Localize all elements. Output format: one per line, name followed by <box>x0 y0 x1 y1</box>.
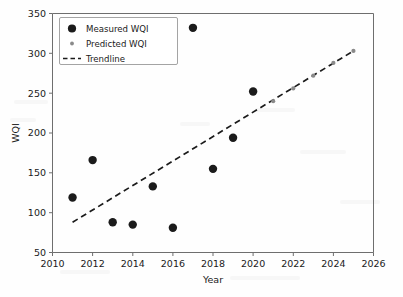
data-point-measured <box>68 193 76 201</box>
y-axis-ticks: 50 100 150 200 250 300 350 <box>28 8 53 258</box>
data-point-measured <box>149 182 157 190</box>
data-point-measured <box>209 165 217 173</box>
legend-marker-measured-icon <box>68 24 76 32</box>
x-tick-label-3: 2016 <box>161 258 185 269</box>
data-point-measured <box>189 24 197 32</box>
chart-figure: 50 100 150 200 250 300 350 2010 2012 201… <box>0 0 403 297</box>
x-tick-label-0: 2010 <box>40 258 64 269</box>
data-point-predicted <box>331 61 335 65</box>
data-point-measured <box>249 87 257 95</box>
data-point-predicted <box>291 86 295 90</box>
x-tick-label-8: 2026 <box>361 258 385 269</box>
legend-label-trendline: Trendline <box>85 54 125 64</box>
y-tick-label-2: 150 <box>28 167 46 178</box>
legend-label-measured: Measured WQI <box>86 24 149 34</box>
trendline <box>73 51 354 222</box>
y-tick-label-3: 200 <box>28 127 46 138</box>
chart-legend[interactable]: Measured WQI Predicted WQI Trendline <box>60 18 178 65</box>
y-tick-label-4: 250 <box>28 88 46 99</box>
legend-label-predicted: Predicted WQI <box>86 39 147 49</box>
data-point-measured <box>229 134 237 142</box>
x-axis-ticks: 2010 2012 2014 2016 2018 2020 2022 2024 … <box>40 253 385 269</box>
x-tick-label-6: 2022 <box>281 258 305 269</box>
y-tick-label-0: 50 <box>34 247 46 258</box>
x-tick-label-2: 2014 <box>121 258 145 269</box>
legend-marker-predicted-icon <box>70 42 74 46</box>
data-point-predicted <box>271 99 275 103</box>
data-point-measured <box>129 220 137 228</box>
predicted-wqi-series <box>271 49 355 103</box>
y-axis-title: WQI <box>10 123 21 143</box>
data-point-predicted <box>351 49 355 53</box>
y-tick-label-6: 350 <box>28 8 46 19</box>
data-point-measured <box>88 156 96 164</box>
x-tick-label-4: 2018 <box>201 258 225 269</box>
data-point-predicted <box>311 74 315 78</box>
y-tick-label-1: 100 <box>28 207 46 218</box>
x-tick-label-1: 2012 <box>81 258 105 269</box>
data-point-measured <box>108 218 116 226</box>
wqi-scatter-chart: 50 100 150 200 250 300 350 2010 2012 201… <box>0 0 403 297</box>
x-tick-label-7: 2024 <box>321 258 345 269</box>
x-axis-title: Year <box>202 274 223 285</box>
y-tick-label-5: 300 <box>28 48 46 59</box>
data-point-measured <box>169 224 177 232</box>
x-tick-label-5: 2020 <box>241 258 265 269</box>
